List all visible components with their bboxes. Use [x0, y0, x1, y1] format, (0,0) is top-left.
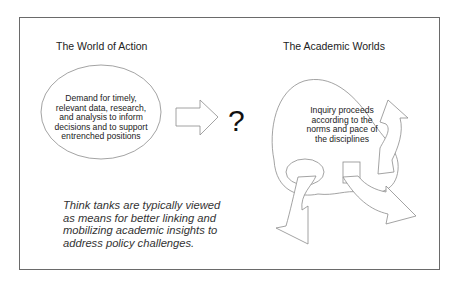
ellipse-line: entrenched positions — [51, 132, 151, 142]
blob-line: the disciplines — [297, 135, 387, 145]
question-mark: ? — [228, 106, 245, 136]
note-line: Think tanks are typically viewed — [63, 199, 243, 212]
think-tanks-note: Think tanks are typically viewed as mean… — [63, 199, 243, 249]
block-arrow-right-icon — [176, 100, 218, 135]
demand-ellipse-text: Demand for timely, relevant data, resear… — [51, 94, 151, 142]
academic-worlds-title: The Academic Worlds — [283, 40, 385, 52]
note-line: mobilizing academic insights to — [63, 224, 243, 237]
curved-arrow-down-left-icon — [276, 176, 316, 244]
world-of-action-title: The World of Action — [56, 40, 147, 52]
note-line: address policy challenges. — [63, 237, 243, 250]
academic-blob-text: Inquiry proceeds according to the norms … — [297, 106, 387, 144]
note-line: as means for better linking and — [63, 212, 243, 225]
